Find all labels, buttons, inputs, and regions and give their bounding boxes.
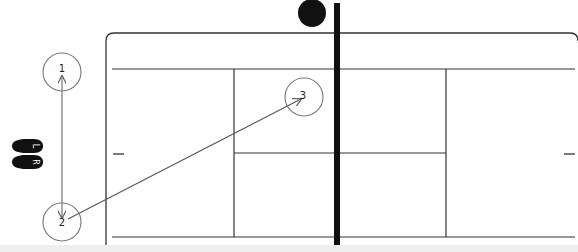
court-outline [106,33,578,245]
ball-icon [298,0,326,27]
left-foot-label: L [31,144,40,149]
court-svg: L R 1 2 3 [0,0,578,252]
marker-3-label: 3 [300,90,306,101]
marker-2-label: 2 [59,217,65,228]
arrow-2-to-3 [68,99,301,219]
bottom-band [0,245,578,252]
marker-1-label: 1 [59,63,65,74]
left-foot-icon: L [12,139,43,153]
tennis-court-diagram: L R 1 2 3 [0,0,578,252]
right-foot-label: R [31,159,40,165]
right-foot-icon: R [12,155,43,169]
feet-legend: L R [12,139,43,169]
marker-3: 3 [285,78,323,116]
net [334,3,340,245]
